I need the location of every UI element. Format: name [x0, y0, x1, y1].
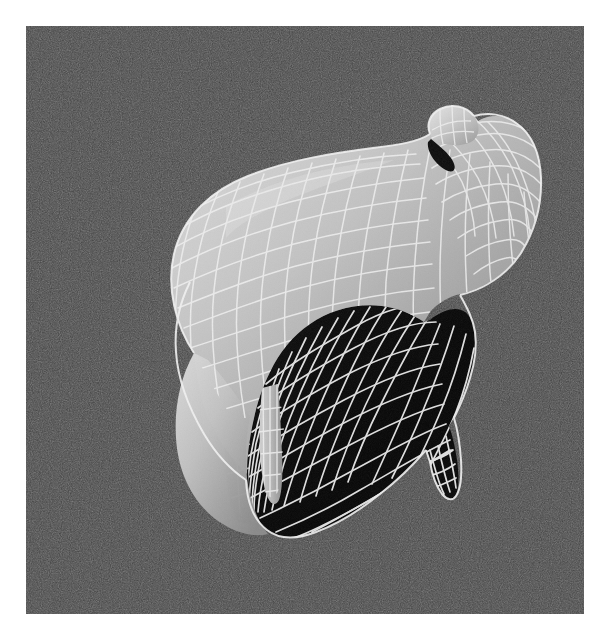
page-root	[0, 0, 605, 639]
render-viewport[interactable]	[26, 26, 584, 614]
foreground-grain	[26, 26, 584, 614]
wireframe-render	[26, 26, 584, 614]
